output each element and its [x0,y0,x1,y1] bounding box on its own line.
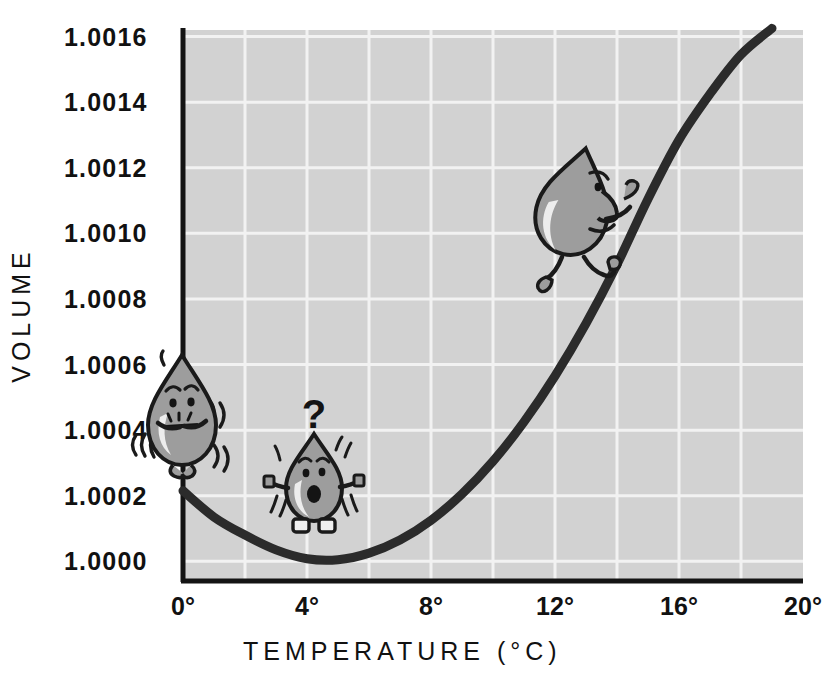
foot-back [538,277,552,292]
eye [595,183,602,191]
x-tick-label: 16° [660,592,698,620]
x-tick-label: 8° [419,592,443,620]
foot-front [608,257,621,270]
x-tick-label: 20° [784,592,822,620]
x-tick-label: 4° [295,592,319,620]
y-tick-label: 1.0008 [64,285,148,313]
y-axis-title: VOLUME [7,247,35,383]
y-tick-label: 1.0012 [64,154,148,182]
question-mark-icon: ? [302,392,326,436]
foot-left [293,519,309,532]
x-tick-label: 0° [171,592,195,620]
y-tick-label: 1.0000 [64,547,148,575]
y-tick-label: 1.0002 [64,482,148,510]
y-axis-tick-labels: 1.00161.00141.00121.00101.00081.00061.00… [64,23,148,576]
foot-right [319,519,335,532]
x-tick-label: 12° [536,592,574,620]
y-tick-label: 1.0006 [64,351,148,379]
eye-left [303,469,310,477]
y-tick-label: 1.0014 [64,88,148,116]
eye-right [319,468,326,476]
hand-left [264,476,274,487]
mouth [307,485,321,503]
water-volume-chart: 1.00161.00141.00121.00101.00081.00061.00… [0,0,826,685]
y-tick-label: 1.0010 [64,219,148,247]
eye-right [187,398,194,407]
eye-left [169,399,176,408]
x-axis-title: TEMPERATURE (°C) [243,637,562,665]
hand-right [354,475,364,486]
y-tick-label: 1.0016 [64,23,148,51]
chart-svg: 1.00161.00141.00121.00101.00081.00061.00… [0,0,826,685]
